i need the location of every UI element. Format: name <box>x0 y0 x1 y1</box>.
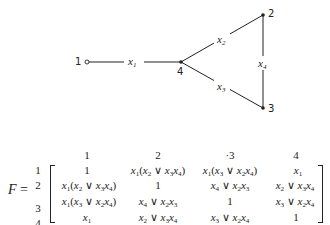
cell-3-4: x3 ∨ x2x4 <box>276 196 315 211</box>
cell-3-1: x1(x3 ∨ x2x4) <box>62 196 116 211</box>
column-header-4: 4 <box>293 150 299 161</box>
column-header-3: ·3 <box>225 150 234 161</box>
node-4-label: 4 <box>177 67 183 77</box>
matrix-left-bracket <box>50 165 55 223</box>
node-3-dot-icon <box>261 106 265 110</box>
matrix-right-bracket <box>318 165 323 223</box>
cell-2-2: 1 <box>155 180 161 191</box>
edge-label-x4: x4 <box>258 58 266 72</box>
row-header-1: 1 <box>35 165 41 176</box>
column-header-1: 1 <box>84 150 90 161</box>
cell-1-4: x1 <box>294 165 302 180</box>
column-header-2: 2 <box>155 150 161 161</box>
row-header-2: 2 <box>35 180 41 191</box>
row-header-4: 4 <box>35 218 41 225</box>
node-2-label: 2 <box>268 9 274 19</box>
node-3-label: 3 <box>268 104 274 114</box>
row-header-3: 3 <box>35 203 41 214</box>
cell-4-4: 1 <box>293 212 299 223</box>
cell-4-2: x2 ∨ x3x4 <box>139 212 178 225</box>
cell-1-1: 1 <box>84 165 90 176</box>
graph-diagram <box>0 0 330 120</box>
cell-1-2: x1(x2 ∨ x3x4) <box>131 165 185 180</box>
node-4-dot-icon <box>179 60 183 64</box>
cell-2-1: x1(x2 ∨ x3x4) <box>62 180 116 195</box>
cell-4-3: x3 ∨ x2x4 <box>211 212 250 225</box>
node-1-open-circle-icon <box>85 60 89 64</box>
edge-label-x3: x3 <box>217 81 225 95</box>
edge-label-x2: x2 <box>217 34 225 48</box>
matrix-name: F = <box>8 182 28 198</box>
cell-4-1: x1 <box>83 212 91 225</box>
cell-3-2: x4 ∨ x2x3 <box>139 196 178 211</box>
cell-2-4: x2 ∨ x3x4 <box>276 180 315 195</box>
cell-2-3: x4 ∨ x2x3 <box>211 180 250 195</box>
cell-3-3: 1 <box>227 196 233 207</box>
node-1-label: 1 <box>75 57 81 67</box>
edge-label-x1: x1 <box>128 56 136 70</box>
node-2-dot-icon <box>261 13 265 17</box>
cell-1-3: x1(x3 ∨ x2x4) <box>203 165 257 180</box>
